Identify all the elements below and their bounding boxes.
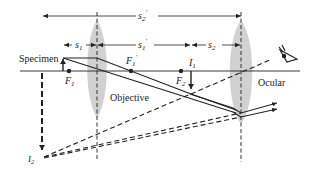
i1-label: I1 (188, 57, 196, 70)
f1-dot (67, 69, 71, 73)
f1-prime-dot (129, 69, 133, 73)
i2-label: I2 (27, 154, 35, 165)
f2-label: F2 (175, 75, 186, 88)
objective-label: Objective (110, 92, 149, 103)
ocular-label: Ocular (258, 77, 286, 88)
f1-prime-label: F1′ (125, 53, 138, 68)
f2-dot (179, 69, 183, 73)
microscope-diagram: Specimen Objective Ocular F1 F1′ F2 I1 I… (0, 0, 323, 172)
f1-label: F1 (64, 75, 75, 88)
specimen-label: Specimen (19, 53, 58, 64)
eye-icon (279, 45, 297, 62)
